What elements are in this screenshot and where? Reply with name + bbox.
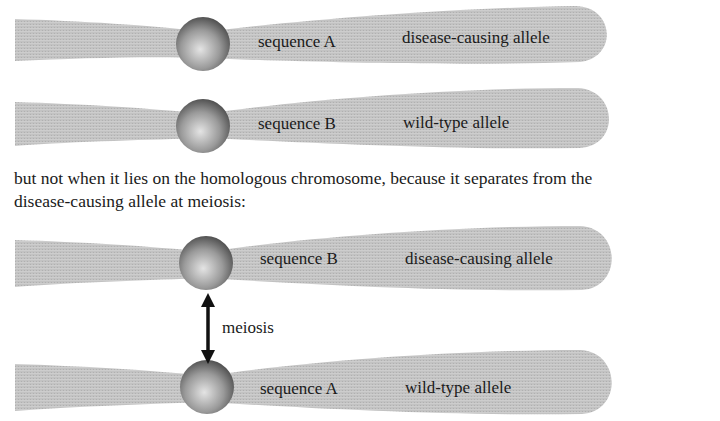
centromere-icon	[176, 99, 230, 153]
sequence-label: sequence B	[260, 250, 338, 267]
allele-label: disease-causing allele	[402, 29, 550, 46]
caption-line-1: but not when it lies on the homologous c…	[14, 167, 714, 190]
centromere-icon	[180, 360, 234, 414]
caption-paragraph: but not when it lies on the homologous c…	[14, 167, 714, 213]
sequence-label: sequence A	[260, 380, 338, 397]
sequence-label: sequence B	[258, 115, 336, 132]
allele-label: disease-causing allele	[405, 250, 553, 267]
caption-line-2: disease-causing allele at meiosis:	[14, 190, 714, 213]
sequence-label: sequence A	[258, 33, 336, 50]
centromere-icon	[176, 17, 230, 71]
centromere-icon	[179, 236, 233, 290]
allele-label: wild-type allele	[405, 379, 511, 396]
allele-label: wild-type allele	[403, 114, 509, 131]
meiosis-label: meiosis	[222, 319, 274, 336]
